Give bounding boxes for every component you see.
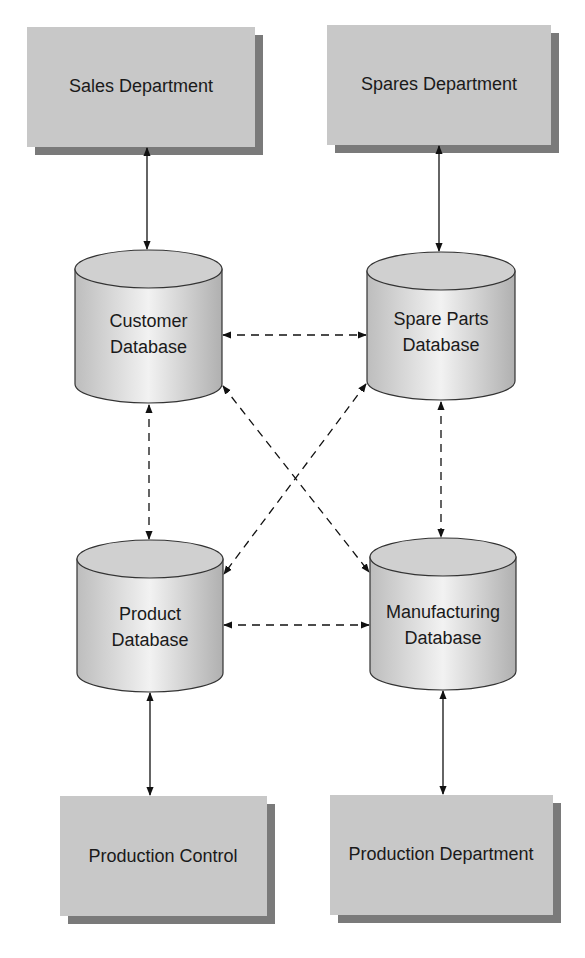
customer-database-cylinder: Customer Database [75,250,222,403]
production-department-box: Production Department [330,795,561,923]
spare-parts-database-label-line1: Spare Parts [393,309,488,329]
spare-parts-database-cylinder: Spare Parts Database [367,252,515,400]
product-database-label-line2: Database [111,630,188,650]
production-department-label: Production Department [348,844,533,864]
production-control-label: Production Control [88,846,237,866]
customer-database-label-line2: Database [110,337,187,357]
spare-parts-database-label-line2: Database [402,335,479,355]
spares-department-box: Spares Department [327,25,559,153]
database-diagram: Sales Department Spares Department Produ… [0,0,585,958]
production-control-box: Production Control [60,796,275,924]
sales-department-box: Sales Department [27,27,263,155]
manufacturing-database-cylinder: Manufacturing Database [370,538,516,690]
manufacturing-database-label-line2: Database [404,628,481,648]
product-database-label-line1: Product [119,604,181,624]
sales-department-label: Sales Department [69,76,213,96]
connector-customer-manufacturing [223,386,369,572]
product-database-cylinder: Product Database [77,540,223,692]
spares-department-label: Spares Department [361,74,517,94]
manufacturing-database-label-line1: Manufacturing [386,602,500,622]
customer-database-label-line1: Customer [109,311,187,331]
connector-spareparts-product [224,384,366,574]
